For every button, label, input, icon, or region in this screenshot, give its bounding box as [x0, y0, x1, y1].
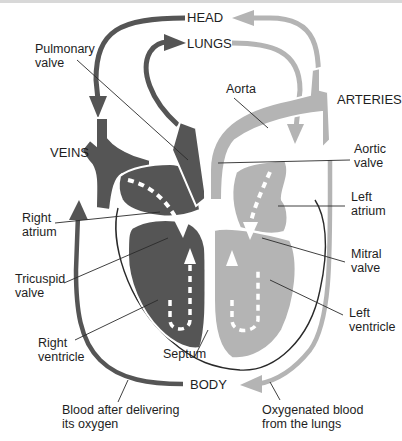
right-heart — [82, 118, 206, 348]
arrow-heart-to-lungs — [146, 34, 186, 125]
label-aortic-valve-1: Aortic — [354, 142, 386, 156]
label-pulmonary-valve-1: Pulmonary — [35, 42, 95, 56]
label-left-ventricle-1: Left — [349, 306, 370, 320]
arrow-head-to-veins — [89, 18, 185, 118]
label-right-ventricle-1: Right — [38, 336, 68, 350]
caption-oxygenated-2: from the lungs — [262, 417, 341, 431]
label-lungs: LUNGS — [187, 36, 232, 51]
label-right-ventricle-2: ventricle — [38, 350, 85, 364]
label-mitral-valve-1: Mitral — [351, 247, 382, 261]
caption-oxygenated-1: Oxygenated blood — [262, 403, 364, 417]
heart-circulation-diagram: HEAD LUNGS ARTERIES VEINS BODY Pulmonary… — [0, 0, 402, 441]
label-left-atrium-1: Left — [351, 190, 372, 204]
label-right-atrium-2: atrium — [22, 225, 57, 239]
caption-deoxygenated-2: its oxygen — [62, 417, 118, 431]
label-body: BODY — [190, 377, 227, 392]
label-veins: VEINS — [50, 145, 89, 160]
label-aorta: Aorta — [226, 82, 256, 96]
label-left-ventricle-2: ventricle — [349, 320, 396, 334]
label-right-atrium-1: Right — [22, 211, 52, 225]
label-head: HEAD — [187, 10, 223, 25]
label-pulmonary-valve-2: valve — [35, 56, 64, 70]
label-tricuspid-valve-1: Tricuspid — [15, 272, 65, 286]
label-mitral-valve-2: valve — [351, 261, 380, 275]
caption-deoxygenated-1: Blood after delivering — [62, 403, 179, 417]
label-arteries: ARTERIES — [337, 92, 402, 107]
label-left-atrium-2: atrium — [351, 204, 386, 218]
septum — [207, 190, 208, 360]
label-aortic-valve-2: valve — [354, 156, 383, 170]
label-tricuspid-valve-2: valve — [15, 286, 44, 300]
label-septum: Septum — [163, 347, 206, 361]
